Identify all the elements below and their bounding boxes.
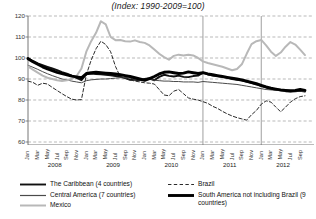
- x-axis-month-label: Nov: [74, 150, 80, 160]
- x-axis-year-label: 2008: [48, 162, 62, 168]
- x-axis-month-label: Jul: [288, 153, 294, 160]
- legend-item[interactable]: Brazil: [168, 180, 316, 189]
- line-swatch-icon: [20, 180, 46, 189]
- x-axis-month-label: Nov: [132, 150, 138, 160]
- legend-item-label: Central America (7 countries): [50, 191, 135, 200]
- x-axis-year-label: 2012: [276, 162, 290, 168]
- x-axis-year-label: 2010: [164, 162, 178, 168]
- legend-column-left: The Caribbean (4 countries)Central Ameri…: [20, 180, 168, 212]
- x-axis-month-label: May: [278, 149, 284, 160]
- dashed-line-swatch-icon: [168, 180, 194, 189]
- x-axis-month-label: Sep: [64, 150, 70, 160]
- y-axis-labels: 12011010090807060: [0, 13, 28, 145]
- y-axis-tick-label: 70: [18, 118, 25, 124]
- x-axis-month-label: Sep: [239, 150, 245, 160]
- legend-item-label: Mexico: [50, 201, 71, 210]
- x-axis-month-label: Jul: [171, 153, 177, 160]
- x-axis-month-label: May: [161, 149, 167, 160]
- legend-item[interactable]: Mexico: [20, 201, 168, 210]
- legend-item-label: South America not including Brazil (9 co…: [198, 191, 316, 208]
- y-axis-tick-label: 120: [15, 13, 25, 19]
- x-axis-month-label: Mar: [152, 150, 158, 160]
- x-axis-month-label: Jul: [113, 153, 119, 160]
- legend-item[interactable]: The Caribbean (4 countries): [20, 180, 168, 189]
- line-swatch-icon: [20, 191, 46, 200]
- x-axis-month-label: Jul: [230, 153, 236, 160]
- x-axis-year-label: 2009: [106, 162, 120, 168]
- legend-item-label: Brazil: [198, 180, 215, 189]
- x-axis-month-label: Sep: [123, 150, 129, 160]
- legend-item[interactable]: Central America (7 countries): [20, 191, 168, 200]
- y-axis-tick-label: 110: [15, 34, 25, 40]
- x-axis-month-label: Mar: [210, 150, 216, 160]
- x-axis-year-label: 2011: [223, 162, 236, 168]
- x-axis-month-label: Sep: [298, 150, 304, 160]
- y-axis-tick-label: 100: [15, 55, 25, 61]
- legend-item-label: The Caribbean (4 countries): [50, 180, 132, 189]
- chart-legend: The Caribbean (4 countries)Central Ameri…: [0, 180, 316, 219]
- plot-area: [0, 13, 316, 145]
- legend-item[interactable]: South America not including Brazil (9 co…: [168, 191, 316, 209]
- x-axis-month-label: Sep: [181, 150, 187, 160]
- x-axis-labels: JanMarMayJulSepNovJanMarMayJulSepNovJanM…: [0, 146, 316, 168]
- x-axis-month-label: May: [220, 149, 226, 160]
- x-axis-month-label: Mar: [35, 150, 41, 160]
- x-axis-month-label: Nov: [191, 150, 197, 160]
- chart-canvas: [0, 13, 316, 145]
- thick-line-swatch-icon: [168, 191, 194, 200]
- y-axis-tick-label: 90: [18, 76, 25, 82]
- chart-title: (Index: 1990-2009=100): [0, 1, 316, 11]
- chart-figure: (Index: 1990-2009=100) 12011010090807060…: [0, 0, 316, 219]
- x-axis-month-label: May: [103, 149, 109, 160]
- x-axis-month-label: Mar: [268, 150, 274, 160]
- x-axis-month-label: Jan: [84, 151, 90, 160]
- legend-column-right: BrazilSouth America not including Brazil…: [168, 180, 316, 210]
- x-axis-month-label: Nov: [249, 150, 255, 160]
- x-axis-month-label: Jan: [259, 151, 265, 160]
- x-axis-month-label: Jan: [200, 151, 206, 160]
- x-axis-month-label: Jan: [25, 151, 31, 160]
- x-axis-month-label: Mar: [93, 150, 99, 160]
- y-axis-tick-label: 80: [18, 97, 25, 103]
- line-swatch-icon: [20, 201, 46, 210]
- x-axis-month-label: Jul: [55, 153, 61, 160]
- y-axis-tick-label: 60: [18, 139, 25, 145]
- x-axis-month-label: May: [45, 149, 51, 160]
- x-axis-month-label: Jan: [142, 151, 148, 160]
